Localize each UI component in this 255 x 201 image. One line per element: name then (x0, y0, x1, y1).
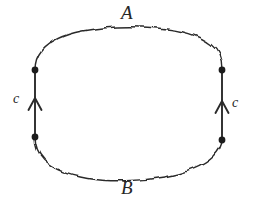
bottom-arc-wavy-curve (35, 137, 222, 181)
right-bottom-vertex-dot (219, 137, 226, 144)
label-top-arc-A: A (121, 3, 133, 22)
left-top-vertex-dot (32, 67, 39, 74)
right-vertical-segment (216, 67, 229, 144)
left-bottom-vertex-dot (32, 134, 39, 141)
label-right-segment-c: c (232, 96, 238, 110)
top-arc-wavy-curve (35, 27, 222, 70)
left-vertical-segment (29, 67, 42, 141)
loop-diagram-svg (0, 0, 255, 201)
right-top-vertex-dot (219, 67, 226, 74)
label-bottom-arc-B: B (121, 178, 133, 197)
label-left-segment-c: c (13, 92, 19, 106)
figure-container: A B c c (0, 0, 255, 201)
